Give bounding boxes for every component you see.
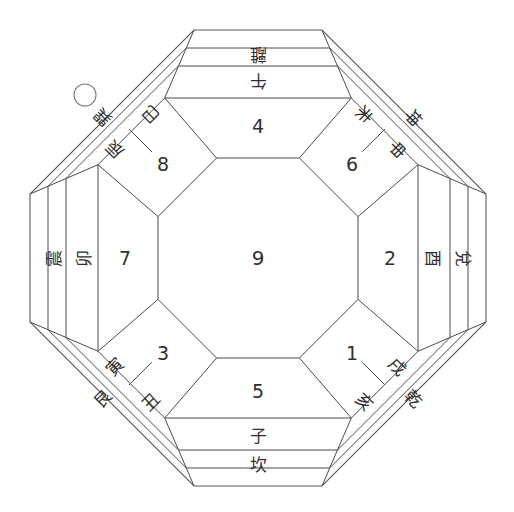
bagua-diagram: 9 4 6 2 1 5 3 7 8 午 未 申 酉 戌 亥 子 丑 寅 卯 辰 …	[0, 0, 514, 512]
trigram-left: 震	[40, 250, 65, 267]
circle-marker-icon	[72, 82, 98, 108]
branch-bottom: 子	[250, 422, 267, 447]
trigram-right: 兌	[452, 250, 477, 267]
number-cell-left: 7	[119, 247, 131, 269]
number-cell-bottom-left: 3	[157, 342, 169, 364]
number-cell-right: 2	[384, 247, 396, 269]
branch-right: 酉	[422, 250, 447, 267]
branch-top: 午	[250, 70, 267, 95]
number-cell-top-left: 8	[157, 153, 169, 175]
trigram-bottom: 坎	[250, 451, 267, 476]
number-cell-bottom: 5	[252, 380, 264, 402]
number-cell-top: 4	[252, 115, 264, 137]
number-cell-bottom-right: 1	[346, 342, 358, 364]
ring-center	[158, 158, 358, 358]
trigram-top: 離	[250, 44, 267, 69]
branch-left: 卯	[70, 250, 95, 267]
number-cell-top-right: 6	[346, 153, 358, 175]
